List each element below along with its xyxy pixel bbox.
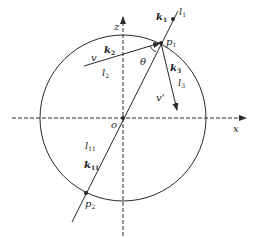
- z-axis-label: z: [114, 22, 119, 32]
- p1-label: p1: [166, 37, 176, 48]
- v-prime-label: v': [156, 93, 164, 103]
- l11-label: l11: [85, 141, 96, 152]
- theta-label: θ: [140, 57, 146, 67]
- point-origin: [121, 116, 125, 120]
- k3-label: k3: [170, 63, 181, 74]
- x-axis-label: x: [233, 124, 239, 134]
- l2-label: l2: [102, 68, 109, 79]
- point-p2: [84, 191, 88, 195]
- k2-label: k2: [104, 45, 115, 56]
- diagram-svg: [0, 0, 256, 238]
- origin-label: o: [111, 120, 117, 130]
- p2-label: p2: [85, 199, 95, 210]
- k11-label: k11: [84, 160, 99, 171]
- l3-label: l3: [178, 78, 185, 89]
- point-l1-tip: [171, 17, 175, 21]
- l1-label: l1: [179, 7, 186, 18]
- theta-arc: [150, 46, 156, 52]
- point-p1: [159, 41, 163, 45]
- v-label: v: [91, 53, 97, 63]
- k1-label: k1: [156, 12, 167, 23]
- diagram-canvas: z x o k1 l1 p1 k2 v l2 θ k3 l3 v' l11 k1…: [0, 0, 256, 238]
